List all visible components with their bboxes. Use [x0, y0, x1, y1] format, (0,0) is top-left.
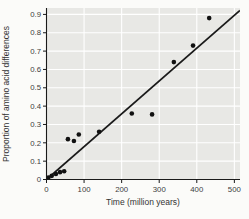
x-tick-label: 100	[78, 185, 92, 194]
x-tick-label: 500	[228, 185, 242, 194]
scatter-chart-figure: 010020030040050000.10.20.30.40.50.60.70.…	[0, 0, 249, 219]
y-tick-label: 0.6	[30, 65, 41, 74]
y-axis-title: Proportion of amino acid differences	[1, 26, 11, 162]
chart-canvas: 010020030040050000.10.20.30.40.50.60.70.…	[0, 0, 249, 219]
scatter-point	[77, 132, 82, 137]
y-tick-label: 0	[37, 175, 42, 184]
y-tick-label: 0.1	[30, 157, 41, 166]
scatter-point	[191, 43, 196, 48]
y-tick-label: 0.9	[30, 10, 41, 19]
y-tick-label: 0.4	[30, 102, 42, 111]
chart-layers: 010020030040050000.10.20.30.40.50.60.70.…	[30, 8, 241, 194]
x-axis-title: Time (million years)	[106, 197, 180, 207]
x-tick-label: 0	[44, 185, 49, 194]
x-tick-label: 200	[115, 185, 129, 194]
y-tick-label: 0.7	[30, 47, 41, 56]
scatter-point	[66, 137, 71, 142]
y-tick-label: 0.8	[30, 28, 41, 37]
scatter-point	[49, 174, 54, 179]
scatter-point	[129, 111, 134, 116]
scatter-point	[72, 139, 77, 144]
scatter-point	[62, 169, 67, 174]
x-tick-label: 300	[153, 185, 167, 194]
y-tick-label: 0.5	[30, 83, 42, 92]
scatter-point	[207, 16, 212, 21]
scatter-point	[58, 170, 63, 175]
scatter-point	[97, 130, 102, 135]
y-tick-label: 0.3	[30, 120, 41, 129]
x-tick-label: 400	[190, 185, 204, 194]
scatter-point	[172, 60, 177, 65]
scatter-point	[54, 172, 59, 177]
scatter-point	[150, 112, 155, 117]
y-tick-label: 0.2	[30, 139, 41, 148]
